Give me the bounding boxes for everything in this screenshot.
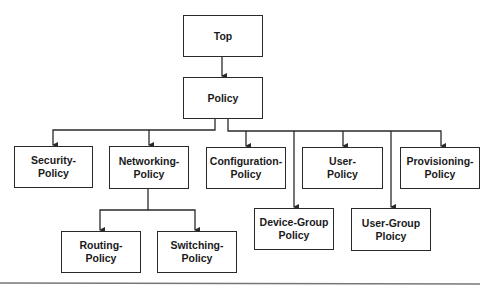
- node-label: Policy: [208, 92, 239, 105]
- node-label-line1: Networking-: [119, 155, 180, 168]
- node-label-line2: Policy: [327, 168, 358, 181]
- node-label-line2: Policy: [279, 229, 310, 242]
- node-label-line1: User-: [329, 155, 356, 168]
- node-security-policy: Security- Policy: [14, 146, 93, 188]
- node-networking-policy: Networking- Policy: [109, 146, 189, 189]
- node-label-line1: Provisioning-: [406, 155, 473, 168]
- node-label-line2: Policy: [231, 168, 262, 181]
- node-label-line1: User-Group: [362, 217, 420, 230]
- node-label-line2: Policy: [182, 252, 213, 265]
- node-switching-policy: Switching- Policy: [157, 231, 237, 273]
- node-label-line1: Switching-: [170, 239, 223, 252]
- node-label-line1: Device-Group: [260, 216, 329, 229]
- node-provisioning-policy: Provisioning- Policy: [400, 147, 480, 189]
- node-label-line1: Security-: [31, 154, 76, 167]
- bottom-rule: [0, 283, 480, 284]
- node-label: Top: [214, 30, 232, 43]
- node-label-line1: Configuration-: [210, 155, 282, 168]
- node-label-line2: Policy: [134, 168, 165, 181]
- node-top: Top: [183, 15, 263, 57]
- node-device-group-policy: Device-Group Policy: [254, 208, 334, 250]
- node-routing-policy: Routing- Policy: [61, 231, 141, 273]
- node-label-line2: Ploicy: [376, 230, 407, 243]
- node-user-policy: User- Policy: [302, 147, 383, 189]
- node-policy: Policy: [183, 77, 263, 119]
- node-configuration-policy: Configuration- Policy: [206, 147, 286, 189]
- node-label-line2: Policy: [425, 168, 456, 181]
- node-label-line2: Policy: [86, 252, 117, 265]
- node-label-line1: Routing-: [79, 239, 122, 252]
- node-label-line2: Policy: [38, 167, 69, 180]
- policy-hierarchy-diagram: Top Policy Security- Policy Networking- …: [0, 0, 493, 288]
- node-user-group-policy: User-Group Ploicy: [351, 208, 431, 251]
